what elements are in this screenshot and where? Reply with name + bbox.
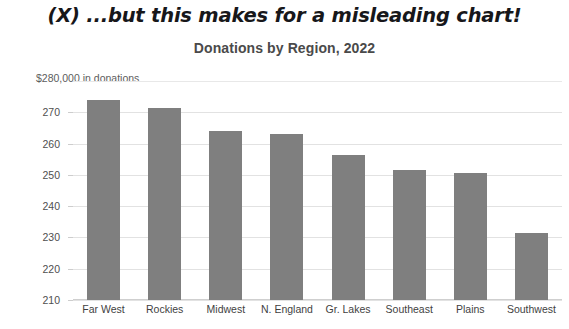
bar[interactable] — [515, 233, 548, 300]
bar[interactable] — [393, 170, 426, 300]
bar[interactable] — [454, 173, 487, 300]
x-axis-tick-label: Far West — [82, 303, 124, 315]
bar[interactable] — [270, 134, 303, 300]
x-axis-tick-label: Rockies — [146, 303, 183, 315]
x-axis-line — [73, 299, 562, 300]
bar-chart: 270260250240230220210 Far WestRockiesMid… — [0, 0, 569, 329]
plot-area — [73, 81, 562, 300]
bar[interactable] — [148, 108, 181, 300]
gridline — [73, 175, 562, 176]
bar[interactable] — [87, 100, 120, 300]
gridline — [73, 269, 562, 270]
x-axis-tick-labels: Far WestRockiesMidwestN. EnglandGr. Lake… — [73, 303, 562, 323]
gridline — [73, 112, 562, 113]
gridline — [73, 237, 562, 238]
x-axis-tick-label: Midwest — [207, 303, 246, 315]
x-axis-tick-label: N. England — [261, 303, 313, 315]
x-axis-tick-label: Southwest — [507, 303, 556, 315]
x-axis-tick-label: Gr. Lakes — [326, 303, 371, 315]
gridline — [73, 81, 562, 82]
x-axis-tick-label: Southeast — [386, 303, 433, 315]
bar[interactable] — [332, 155, 365, 300]
gridline — [73, 300, 562, 301]
bar[interactable] — [209, 131, 242, 300]
y-axis-tickmarks — [0, 81, 73, 300]
gridline — [73, 206, 562, 207]
x-axis-tick-label: Plains — [456, 303, 485, 315]
gridline — [73, 144, 562, 145]
